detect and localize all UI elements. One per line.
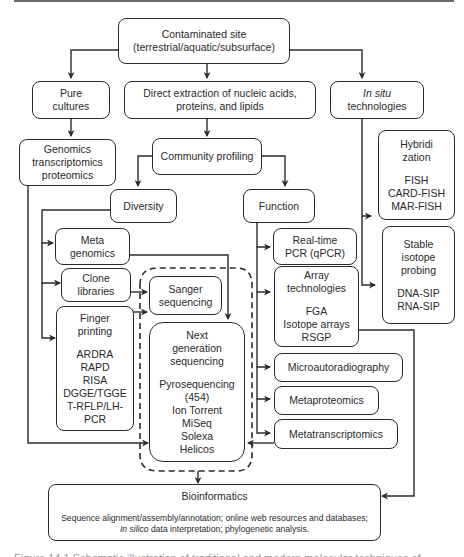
node-item: Pyrosequencing: [159, 378, 234, 391]
node-item: DGGE/TGGE: [63, 387, 127, 400]
node-item: RNA-SIP: [397, 300, 440, 313]
node-item: Isotope arrays: [283, 318, 350, 331]
node-description: Sequence alignment/assembly/annotation; …: [61, 513, 368, 524]
node-label: Diversity: [123, 200, 163, 213]
node-genomics: Genomics transcriptomics proteomics: [19, 139, 116, 186]
node-item: MiSeq: [182, 417, 212, 430]
node-hybridization: Hybridi zation FISH CARD-FISH MAR-FISH: [378, 130, 455, 220]
node-finger-printing: Finger printing ARDRA RAPD RISA DGGE/TGG…: [56, 306, 134, 431]
node-label: technologies: [287, 282, 346, 295]
node-label: Direct extraction of nucleic acids,: [143, 87, 296, 100]
node-item: (454): [185, 391, 210, 404]
node-metaproteomics: Metaproteomics: [274, 386, 379, 415]
node-contaminated-site: Contaminated site (terrestrial/aquatic/s…: [118, 18, 290, 64]
node-label: Stable: [404, 238, 434, 251]
figure-caption: Figure 14.1 Schematic illustration of tr…: [14, 549, 454, 557]
node-item: T-RFLP/LH-: [67, 400, 123, 413]
node-microautoradiography: Microautoradiography: [274, 353, 403, 382]
node-label: Real-time: [293, 234, 338, 247]
node-label: Meta: [81, 234, 104, 247]
node-sanger-sequencing: Sanger sequencing: [149, 276, 222, 315]
node-metatranscriptomics: Metatranscriptomics: [274, 419, 398, 449]
node-label: sequencing: [159, 296, 213, 309]
node-label: In situ: [363, 87, 391, 100]
node-item: RAPD: [80, 361, 109, 374]
node-item: MAR-FISH: [391, 200, 442, 213]
node-item: RISA: [83, 374, 108, 387]
node-label: proteins, and lipids: [176, 100, 264, 113]
node-label: Metaproteomics: [289, 394, 364, 407]
node-item: FISH: [405, 174, 429, 187]
node-pure-cultures: Pure cultures: [32, 81, 110, 119]
node-label: Clone: [82, 272, 109, 285]
node-item: FGA: [306, 305, 328, 318]
node-label: Pure: [60, 87, 82, 100]
node-description-line2: In silico data interpretation; phylogene…: [120, 524, 309, 535]
node-label: cultures: [53, 100, 90, 113]
node-label: zation: [402, 151, 430, 164]
node-label: genomics: [70, 247, 115, 260]
node-label: Microautoradiography: [288, 361, 390, 374]
node-label: Finger: [80, 312, 110, 325]
node-label: transcriptomics: [32, 156, 103, 169]
node-item: PCR: [84, 413, 106, 426]
node-label: isotope: [402, 251, 436, 264]
node-item: ARDRA: [77, 348, 114, 361]
node-label: Next: [186, 329, 208, 342]
node-label: Function: [259, 200, 299, 213]
node-direct-extraction: Direct extraction of nucleic acids, prot…: [124, 81, 316, 119]
node-label: sequencing: [170, 355, 224, 368]
node-item: CARD-FISH: [388, 187, 445, 200]
node-label: Metatranscriptomics: [289, 428, 383, 441]
node-label: (terrestrial/aquatic/subsurface): [133, 41, 275, 54]
node-label: libraries: [78, 285, 115, 298]
node-label: Contaminated site: [162, 28, 247, 41]
node-label: generation: [172, 342, 222, 355]
node-label: Bioinformatics: [182, 490, 248, 503]
node-in-situ: In situ technologies: [330, 81, 424, 119]
node-next-generation-sequencing: Next generation sequencing Pyrosequencin…: [149, 322, 245, 462]
node-function: Function: [243, 189, 315, 223]
node-label: Sanger: [169, 283, 203, 296]
node-label: Community profiling: [161, 150, 254, 163]
node-bioinformatics: Bioinformatics Sequence alignment/assemb…: [48, 484, 381, 541]
node-label: technologies: [348, 100, 407, 113]
node-real-time-pcr: Real-time PCR (qPCR): [273, 228, 357, 265]
node-label: Array: [304, 269, 329, 282]
description-rest: data interpretation; phylogenetic analys…: [149, 524, 310, 534]
node-item: Solexa: [181, 430, 213, 443]
node-label: proteomics: [42, 169, 93, 182]
node-label: printing: [78, 325, 112, 338]
node-label: PCR (qPCR): [285, 247, 345, 260]
node-item: Helicos: [180, 443, 214, 456]
node-item: Ion Torrent: [172, 404, 222, 417]
in-silico-text: In silico: [120, 524, 149, 534]
node-item: RSGP: [302, 331, 332, 344]
node-stable-isotope-probing: Stable isotope probing DNA-SIP RNA-SIP: [382, 226, 455, 324]
node-clone-libraries: Clone libraries: [61, 268, 131, 302]
node-metagenomics: Meta genomics: [55, 228, 130, 265]
node-label: probing: [401, 264, 436, 277]
node-diversity: Diversity: [110, 189, 177, 223]
node-item: DNA-SIP: [397, 287, 440, 300]
node-community-profiling: Community profiling: [152, 138, 262, 175]
node-array-technologies: Array technologies FGA Isotope arrays RS…: [274, 266, 359, 347]
node-label: Genomics: [44, 143, 91, 156]
node-label: Hybridi: [400, 138, 433, 151]
